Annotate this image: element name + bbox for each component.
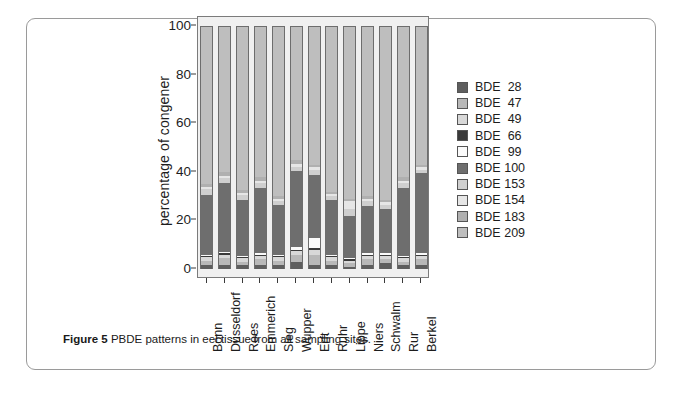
y-tick-mark <box>191 170 196 171</box>
legend-swatch <box>457 163 468 174</box>
x-tick-mark <box>224 278 225 283</box>
x-tick-mark <box>242 278 243 283</box>
x-tick-mark <box>367 278 368 283</box>
legend-label: BDE 100 <box>475 161 525 175</box>
legend-label: BDE 49 <box>475 112 522 126</box>
y-tick-label: 20 <box>157 212 191 227</box>
legend-item[interactable]: BDE 49 <box>457 111 567 127</box>
legend-item[interactable]: BDE 153 <box>457 176 567 192</box>
legend-label: BDE 153 <box>475 177 525 191</box>
chart-plot-region: percentage of congener 020406080100 Bonn… <box>157 25 577 325</box>
bar-column[interactable] <box>397 26 410 269</box>
y-tick-label: 80 <box>157 66 191 81</box>
chart-legend: BDE 28BDE 47BDE 49BDE 66BDE 99BDE 100BDE… <box>457 79 567 241</box>
legend-swatch <box>457 211 468 222</box>
bar-segment <box>362 265 373 269</box>
bar-column[interactable] <box>361 26 374 269</box>
x-tick-mark <box>331 278 332 283</box>
bars-container <box>198 26 428 269</box>
legend-item[interactable]: BDE 66 <box>457 128 567 144</box>
bar-column[interactable] <box>415 26 428 269</box>
legend-item[interactable]: BDE 154 <box>457 192 567 208</box>
y-tick-label: 60 <box>157 115 191 130</box>
x-tick-mark <box>402 278 403 283</box>
x-tick-mark <box>277 278 278 283</box>
legend-label: BDE 28 <box>475 80 522 94</box>
figure-caption-label: Figure 5 <box>63 333 108 345</box>
bar-column[interactable] <box>343 26 356 269</box>
x-tick-mark <box>313 278 314 283</box>
bar-segment <box>416 173 427 253</box>
bar-column[interactable] <box>254 26 267 269</box>
bar-column[interactable] <box>290 26 303 269</box>
bar-segment <box>344 209 355 216</box>
bar-segment <box>380 27 391 200</box>
bar-segment <box>291 262 302 269</box>
bar-segment <box>237 27 248 190</box>
figure-caption: Figure 5 PBDE patterns in eel tissue fro… <box>63 332 643 347</box>
bar-segment <box>273 205 284 255</box>
bar-segment <box>398 265 409 269</box>
bar-segment <box>380 209 391 254</box>
legend-swatch <box>457 130 468 141</box>
bar-column[interactable] <box>308 26 321 269</box>
legend-swatch <box>457 82 468 93</box>
x-tick-mark <box>295 278 296 283</box>
bar-segment <box>380 263 391 269</box>
x-tick-mark <box>384 278 385 283</box>
bar-column[interactable] <box>379 26 392 269</box>
x-tick-mark <box>420 278 421 283</box>
x-tick-mark <box>349 278 350 283</box>
y-tick-label: 40 <box>157 163 191 178</box>
bar-segment <box>309 265 320 269</box>
legend-item[interactable]: BDE 99 <box>457 144 567 160</box>
bar-segment <box>398 188 409 256</box>
legend-swatch <box>457 114 468 125</box>
y-tick-mark <box>191 73 196 74</box>
y-tick-mark <box>191 219 196 220</box>
bar-segment <box>255 27 266 177</box>
bar-column[interactable] <box>325 26 338 269</box>
bar-segment <box>309 238 320 249</box>
bar-column[interactable] <box>218 26 231 269</box>
legend-item[interactable]: BDE 100 <box>457 160 567 176</box>
bar-segment <box>326 265 337 269</box>
legend-swatch <box>457 98 468 109</box>
bar-segment <box>273 27 284 196</box>
legend-label: BDE 66 <box>475 129 522 143</box>
bar-segment <box>237 265 248 269</box>
legend-swatch <box>457 179 468 190</box>
bar-segment <box>309 255 320 266</box>
legend-swatch <box>457 146 468 157</box>
legend-label: BDE 47 <box>475 96 522 110</box>
bar-segment <box>344 267 355 269</box>
figure-frame: percentage of congener 020406080100 Bonn… <box>26 18 656 370</box>
bar-segment <box>362 27 373 196</box>
legend-item[interactable]: BDE 209 <box>457 225 567 241</box>
bar-column[interactable] <box>236 26 249 269</box>
bar-column[interactable] <box>200 26 213 269</box>
bar-segment <box>416 265 427 269</box>
x-tick-mark <box>259 278 260 283</box>
y-tick-label: 0 <box>157 261 191 276</box>
bar-segment <box>291 255 302 262</box>
bar-segment <box>219 265 230 269</box>
bar-segment <box>309 27 320 165</box>
legend-item[interactable]: BDE 183 <box>457 209 567 225</box>
bar-segment <box>291 171 302 247</box>
bar-segment <box>219 183 230 252</box>
x-tick-mark <box>206 278 207 283</box>
y-axis: 020406080100 <box>151 25 191 268</box>
bar-segment <box>255 188 266 253</box>
bar-column[interactable] <box>272 26 285 269</box>
bar-segment <box>237 200 248 256</box>
bar-segment <box>255 265 266 269</box>
bar-segment <box>362 206 373 253</box>
bar-segment <box>201 27 212 184</box>
bar-segment <box>344 216 355 258</box>
bar-segment <box>326 200 337 254</box>
bar-segment <box>219 27 230 172</box>
legend-swatch <box>457 195 468 206</box>
legend-item[interactable]: BDE 47 <box>457 95 567 111</box>
legend-item[interactable]: BDE 28 <box>457 79 567 95</box>
